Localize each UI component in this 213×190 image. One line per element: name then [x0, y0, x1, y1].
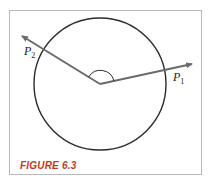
figure-caption: FIGURE 6.3	[20, 160, 76, 171]
point-p2-label: P2	[24, 44, 35, 60]
point-p1-label: P1	[173, 70, 184, 86]
